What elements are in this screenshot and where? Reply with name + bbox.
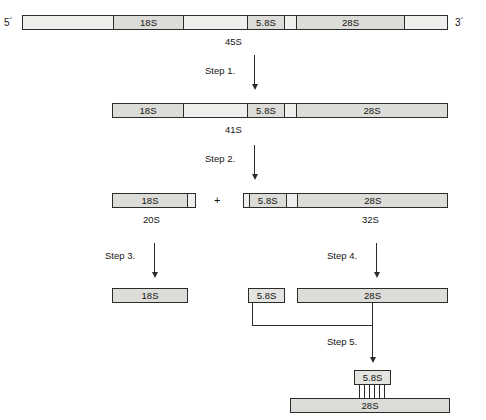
step-1-label: Step 1. — [205, 65, 235, 76]
base-pair-tick — [384, 385, 385, 399]
bracket-left-stem — [252, 303, 253, 325]
segment-its1 — [183, 104, 247, 117]
step-4-arrow — [372, 243, 381, 278]
bar-mature-18s: 18S — [112, 288, 188, 303]
base-pair-tick — [359, 385, 360, 399]
bar-32s: 5.8S 28S — [243, 193, 448, 208]
segment-5-8s: 5.8S — [249, 194, 286, 207]
box-hybrid-5-8s: 5.8S — [354, 370, 391, 385]
segment-28s: 28S — [298, 289, 447, 302]
segment-18s: 18S — [113, 194, 187, 207]
step-2-label: Step 2. — [205, 153, 235, 164]
segment-its2 — [284, 104, 296, 117]
three-prime-label: 3´ — [455, 17, 464, 28]
segment-5-8s: 5.8S — [247, 104, 284, 117]
step-5-label: Step 5. — [327, 336, 357, 347]
segment-its2 — [284, 16, 296, 29]
segment-18s: 18S — [113, 16, 183, 29]
segment-5-8s: 5.8S — [247, 16, 284, 29]
base-pair-tick — [374, 385, 375, 399]
segment-18s: 18S — [113, 104, 183, 117]
bar-45s: 18S 5.8S 28S — [22, 15, 448, 30]
bar-20s: 18S — [112, 193, 196, 208]
label-41s: 41S — [225, 124, 242, 135]
step-4-label: Step 4. — [327, 250, 357, 261]
label-20s: 20S — [143, 214, 160, 225]
step-5-arrow — [368, 325, 377, 363]
segment-its1-remnant — [187, 194, 195, 207]
segment-28s: 28S — [297, 194, 447, 207]
segment-28s: 28S — [296, 104, 447, 117]
segment-5-ets — [23, 16, 113, 29]
step-1-arrow — [250, 55, 259, 90]
bracket-crossbar — [252, 325, 373, 326]
step-3-arrow — [150, 243, 159, 278]
step-3-label: Step 3. — [105, 250, 135, 261]
segment-its2 — [286, 194, 298, 207]
rrna-processing-diagram: 5´ 18S 5.8S 28S 3´ 45S Step 1. 18S 5.8S … — [0, 0, 486, 420]
segment-3-ets — [404, 16, 447, 29]
segment-28s: 28S — [291, 399, 449, 412]
segment-its1 — [183, 16, 247, 29]
base-pair-tick — [364, 385, 365, 399]
plus-sign: + — [214, 195, 220, 206]
step-2-arrow — [250, 145, 259, 180]
label-32s: 32S — [362, 214, 379, 225]
bar-hybrid-28s: 28S — [290, 398, 450, 413]
base-pair-tick — [379, 385, 380, 399]
segment-18s: 18S — [113, 289, 187, 302]
bracket-right-stem — [372, 303, 373, 325]
segment-28s: 28S — [296, 16, 404, 29]
bar-41s: 18S 5.8S 28S — [112, 103, 448, 118]
base-pair-tick — [369, 385, 370, 399]
bar-mature-28s: 28S — [297, 288, 448, 303]
five-prime-label: 5´ — [4, 17, 13, 28]
box-mature-5-8s: 5.8S — [248, 288, 285, 303]
label-45s: 45S — [225, 36, 242, 47]
